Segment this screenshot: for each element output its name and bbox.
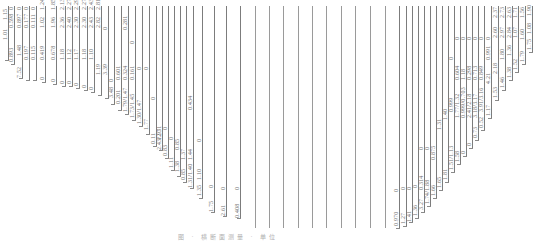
measurement-label: 2.61 (220, 205, 226, 216)
profile-line-foot (488, 118, 492, 119)
measurement-label: 2.37 (492, 7, 498, 18)
measurement-label: 0 (81, 85, 87, 88)
measurement-label: 0 (150, 97, 156, 100)
measurement-label: 1.18 (59, 49, 65, 60)
profile-line-foot (33, 80, 37, 81)
measurement-label: 2.30 (73, 17, 79, 28)
measurement-label: 0.601 (115, 66, 121, 81)
profile-line-foot (105, 98, 109, 99)
measurement-label: 0.281 (122, 16, 128, 31)
cross-section-diagram: 1.011.150.8930.59807.521.480.89700.1970.… (0, 0, 545, 243)
profile-line-foot (42, 82, 46, 83)
measurement-label: 0 (39, 77, 45, 80)
profile-line (412, 6, 413, 222)
measurement-label: 0.52 (478, 117, 484, 128)
profile-line (298, 6, 299, 228)
measurement-label: 0.408 (234, 204, 240, 219)
measurement-label: 3.91/3.16 (478, 88, 484, 112)
profile-line-foot (26, 80, 30, 81)
measurement-label: 0 (73, 83, 79, 86)
measurement-label: 2.81 (95, 0, 101, 10)
measurement-label: 0 (129, 41, 135, 44)
profile-line (226, 6, 227, 216)
measurement-label: 0 (30, 7, 36, 10)
measurement-label: 0.111 (30, 14, 36, 28)
measurement-label: 0.678 (50, 46, 56, 61)
measurement-label: 0 (208, 185, 214, 188)
measurement-label: 1.85 (50, 0, 56, 10)
measurement-label: 0.115 (30, 46, 36, 60)
measurement-label: 1.46 (499, 77, 505, 88)
profile-line (193, 6, 194, 188)
measurement-label: 3.39 (102, 64, 108, 75)
measurement-label: 0.991 (485, 46, 491, 61)
measurement-label: 1.18 (81, 49, 87, 60)
measurement-label: 0 (66, 81, 72, 84)
profile-line-foot (421, 212, 425, 213)
measurement-label: 1.90 (526, 5, 532, 16)
profile-line-foot (415, 218, 419, 219)
profile-line (108, 6, 109, 98)
profile-line (430, 6, 431, 206)
figure-caption: 图 · 横断面测量 · 单位 (178, 232, 278, 241)
measurement-label: 1.24 (39, 0, 45, 10)
profile-line-foot (463, 156, 467, 157)
measurement-label: 0 (88, 87, 94, 90)
measurement-label: 2.40 (66, 17, 72, 28)
profile-line-foot (495, 100, 499, 101)
profile-line (532, 6, 533, 52)
measurement-label: 0 (196, 139, 202, 142)
profile-line (36, 6, 37, 80)
measurement-label: 0 (59, 81, 65, 84)
measurement-label: 1.97 (156, 129, 162, 140)
profile-line-foot (529, 52, 533, 53)
profile-line (466, 6, 467, 156)
profile-line (240, 6, 241, 218)
measurement-label: 0.324 (122, 66, 128, 81)
measurement-label: 3.48 (108, 87, 114, 98)
measurement-label: 0 (143, 67, 149, 70)
measurement-label: 0 (136, 67, 142, 70)
profile-line-foot (509, 80, 513, 81)
measurement-label: 2.82 (95, 17, 101, 28)
profile-line (399, 6, 400, 228)
profile-line (326, 6, 327, 228)
profile-line-foot (396, 228, 400, 229)
profile-line-foot (403, 226, 407, 227)
measurement-label: 0.83 (162, 145, 168, 156)
measurement-label: 2.27 (81, 0, 87, 10)
profile-line-foot (481, 130, 485, 131)
measurement-label: 1.81 (442, 169, 448, 180)
measurement-label: 1.60 (519, 29, 525, 40)
measurement-label: 2.29 (73, 0, 79, 10)
measurement-label: 1.96 (50, 17, 56, 28)
measurement-label: 0 (23, 7, 29, 10)
measurement-label: 0.893 (8, 48, 14, 63)
profile-line (442, 6, 443, 190)
measurement-label: 1.73/1.45 (129, 94, 135, 118)
measurement-label: 4.21 (485, 73, 491, 84)
measurement-label: 7.52 (16, 67, 22, 78)
profile-line (56, 6, 57, 84)
profile-line-foot (427, 206, 431, 207)
measurement-label: 0 (162, 127, 168, 130)
profile-line-foot (76, 88, 80, 89)
measurement-label: 1.19 (95, 64, 101, 75)
measurement-label: 1.17 (73, 49, 79, 60)
measurement-label: 1.35 (196, 185, 202, 196)
profile-line-foot (111, 104, 115, 105)
measurement-label: 1.10 (88, 49, 94, 60)
measurement-label: 0 (50, 79, 56, 82)
measurement-label: 1.36 (506, 45, 512, 56)
measurement-label: 0.201 (115, 90, 121, 105)
profile-line-foot (223, 216, 227, 217)
measurement-label: 1.44 (187, 149, 193, 160)
measurement-label: 2.60 (492, 27, 498, 38)
measurement-label: 2.97 (499, 27, 505, 38)
profile-line (341, 6, 342, 228)
measurement-label: 1.53 (492, 87, 498, 98)
measurement-label: 1.01 (2, 29, 8, 40)
profile-line-foot (11, 64, 15, 65)
measurement-label: 0 (466, 143, 472, 146)
measurement-label: 0.875 (430, 146, 436, 161)
